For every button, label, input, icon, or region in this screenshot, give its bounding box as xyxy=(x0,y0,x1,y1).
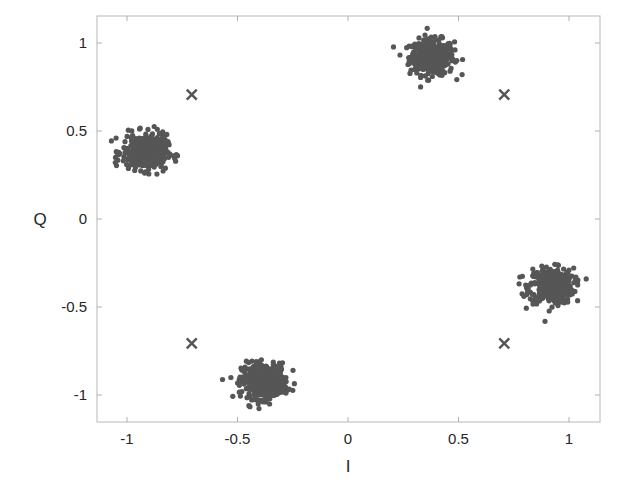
x-axis-label: I xyxy=(346,457,351,476)
y-tick-label: 0.5 xyxy=(66,122,87,139)
x-tick-label: 0 xyxy=(344,430,352,447)
y-axis-label: Q xyxy=(33,210,46,229)
y-tick-label: -0.5 xyxy=(61,298,87,315)
x-tick-label: 1 xyxy=(565,430,573,447)
x-tick-label: 0.5 xyxy=(448,430,469,447)
plot-area xyxy=(97,16,600,422)
constellation-chart: -1-0.500.5110.50-0.5-1 I Q xyxy=(0,0,630,496)
x-tick-label: -0.5 xyxy=(225,430,251,447)
y-tick-label: -1 xyxy=(74,386,87,403)
x-tick-label: -1 xyxy=(120,430,133,447)
y-tick-label: 1 xyxy=(79,34,87,51)
y-tick-label: 0 xyxy=(79,210,87,227)
